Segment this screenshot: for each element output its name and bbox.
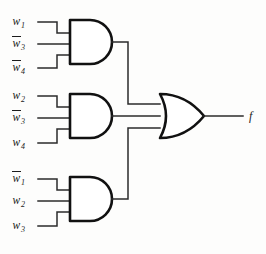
input-label-and2-in2: w3 — [12, 112, 25, 126]
signal-label-layer: w1 w3 w4 w2 w3 w4 w1 w2 w3 f — [0, 0, 266, 254]
input-label-and1-in3: w4 — [12, 62, 25, 76]
input-label-and2-in1: w2 — [12, 90, 25, 104]
input-label-and1-in1: w1 — [12, 16, 25, 30]
input-label-and3-in1: w1 — [12, 173, 25, 187]
output-label-f: f — [249, 110, 252, 122]
input-label-and3-in3: w3 — [12, 220, 25, 234]
input-label-and2-in3: w4 — [12, 137, 25, 151]
logic-circuit-diagram: w1 w3 w4 w2 w3 w4 w1 w2 w3 f — [0, 0, 266, 254]
input-label-and3-in2: w2 — [12, 195, 25, 209]
input-label-and1-in2: w3 — [12, 38, 25, 52]
